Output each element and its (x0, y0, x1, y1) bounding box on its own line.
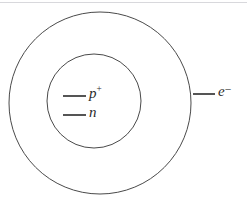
atom-diagram-canvas (0, 0, 247, 201)
neutron-symbol-text: n (89, 104, 97, 120)
electron-shell-circle (9, 12, 191, 194)
electron-label: e− (218, 84, 231, 99)
electron-charge-text: − (225, 83, 232, 96)
neutron-label: n (89, 105, 97, 120)
nucleus-circle (47, 54, 141, 148)
proton-symbol-text: p (89, 85, 97, 101)
electron-symbol-text: e (218, 83, 225, 99)
proton-charge-text: + (97, 84, 102, 94)
proton-label: p+ (89, 86, 102, 101)
atom-diagram: p+ n e− (0, 0, 247, 201)
